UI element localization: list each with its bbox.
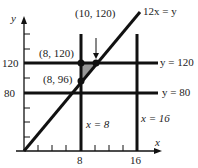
axis-label-x: x [154,136,160,148]
label-point-8-96: (8, 96) [43,73,73,86]
axis-label-y: y [10,12,16,24]
chart: 12x = y y = 120 y = 80 x = 8 x = 16 (10,… [0,0,198,168]
label-point-8-120: (8, 120) [39,47,74,60]
pointer-arrowhead-icon [93,53,99,59]
tick-label-x-8: 8 [77,154,83,166]
label-12x-eq-y: 12x = y [143,5,177,17]
tick-label-y-80: 80 [4,87,16,99]
chart-svg: 12x = y y = 120 y = 80 x = 8 x = 16 (10,… [0,0,198,168]
label-y-80: y = 80 [162,86,191,98]
label-x-16: x = 16 [140,112,170,124]
tick-label-x-16: 16 [130,154,142,166]
point-10-120 [93,60,100,67]
tick-label-y-120: 120 [2,57,19,69]
point-8-96 [78,78,85,85]
label-point-10-120: (10, 120) [75,7,116,20]
label-y-120: y = 120 [160,56,194,68]
point-8-120 [78,60,85,67]
label-x-8: x = 8 [85,118,110,130]
y-axis-arrow-icon [21,16,27,24]
y-ticks [24,34,30,137]
x-axis-arrow-icon [154,148,162,154]
